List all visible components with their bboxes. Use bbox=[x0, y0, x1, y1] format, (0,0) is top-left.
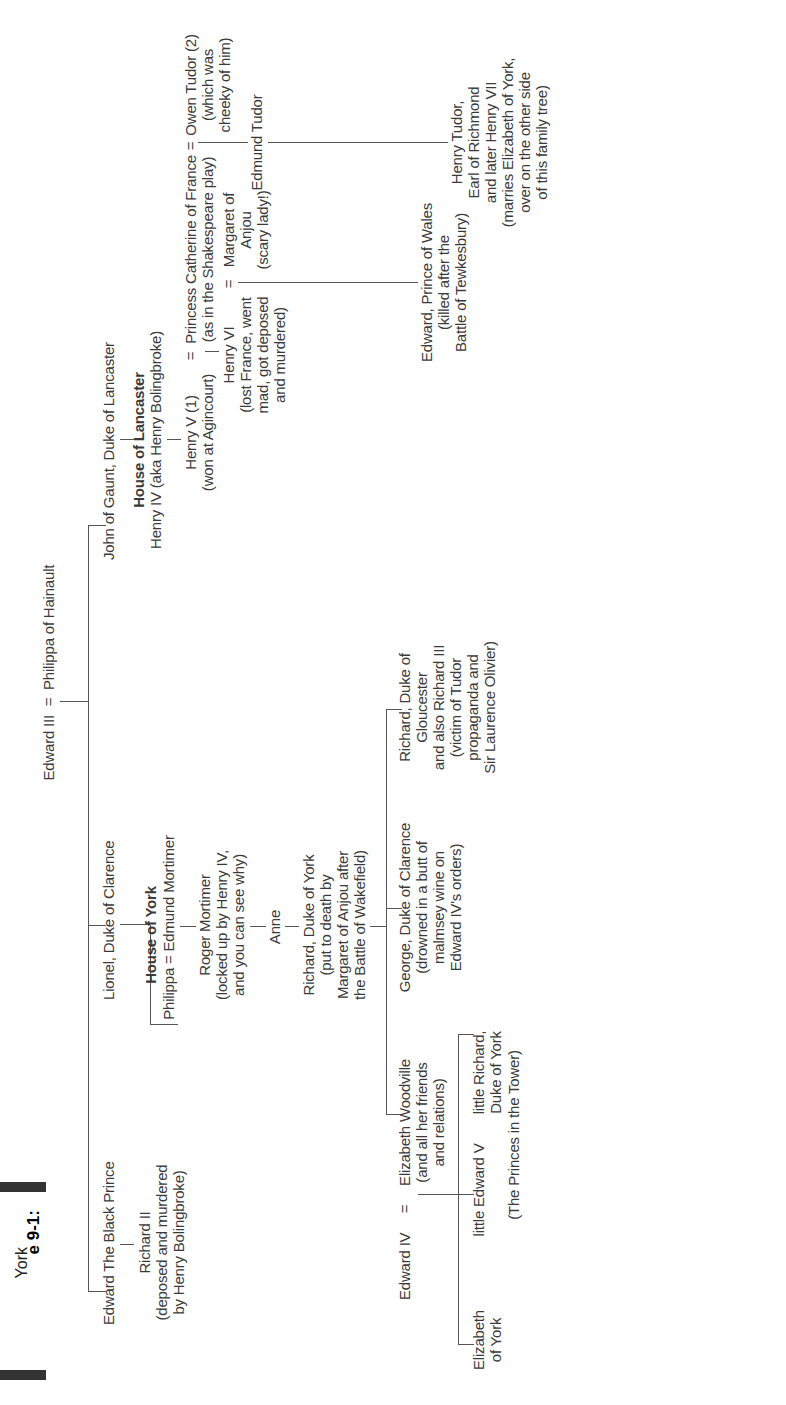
node-edward-iii: Edward III bbox=[40, 715, 57, 825]
marriage-symbol: = bbox=[396, 1203, 413, 1215]
node-catherine-of-france: Princess Catherine of France (as in the … bbox=[182, 152, 216, 347]
connector bbox=[198, 142, 248, 143]
node-lionel: Lionel, Duke of Clarence bbox=[100, 841, 117, 1000]
node-roger-mortimer: Roger Mortimer (locked up by Henry IV, a… bbox=[196, 830, 247, 1020]
node-philippa-of-hainault: Philippa of Hainault bbox=[40, 565, 57, 690]
connector bbox=[458, 1035, 459, 1345]
marriage-symbol: = bbox=[40, 696, 57, 708]
node-anne: Anne bbox=[266, 889, 283, 965]
family-tree-diagram: Edward III = Philippa of Hainault Edward… bbox=[0, 0, 786, 1405]
node-elizabeth-woodville: Elizabeth Woodville (and all her friends… bbox=[396, 1045, 447, 1200]
caption-bar-bottom bbox=[0, 1370, 46, 1380]
node-henry-tudor: Henry Tudor, Earl of Richmond and later … bbox=[448, 45, 550, 240]
house-of-york-title: House of York bbox=[142, 845, 159, 1025]
connector bbox=[285, 926, 299, 927]
marriage-symbol: = bbox=[220, 278, 237, 290]
connector bbox=[180, 926, 196, 927]
connector bbox=[88, 526, 89, 1292]
marriage-symbol: = bbox=[182, 350, 199, 362]
node-little-edward-v: little Edward V bbox=[470, 1130, 487, 1250]
node-elizabeth-of-york: Elizabeth of York bbox=[470, 1300, 504, 1380]
node-richard-ii: Richard II (deposed and murdered by Henr… bbox=[136, 1155, 187, 1330]
connector bbox=[238, 282, 418, 283]
marriage-symbol: = bbox=[182, 140, 199, 152]
connector bbox=[268, 142, 448, 143]
node-richard-duke-of-york: Richard, Duke of York (put to death by M… bbox=[300, 835, 368, 1015]
connector bbox=[120, 1244, 134, 1245]
node-edmund-tudor: Edmund Tudor bbox=[248, 85, 265, 200]
node-little-richard: little Richard, Duke of York bbox=[470, 1015, 504, 1130]
connector bbox=[370, 926, 386, 927]
princes-in-the-tower-note: (The Princes in the Tower) bbox=[505, 1035, 522, 1235]
node-edward-black-prince: Edward The Black Prince bbox=[100, 1161, 117, 1325]
node-henry-iv: Henry IV (aka Henry Bolingbroke) bbox=[147, 320, 164, 560]
connector bbox=[167, 439, 181, 440]
node-henry-vi: Henry VI (lost France, went mad, got dep… bbox=[220, 290, 288, 420]
node-henry-v: Henry V (1) (won at Agincourt) bbox=[182, 365, 216, 500]
caption-line: York bbox=[13, 1247, 31, 1291]
node-edward-iv: Edward IV bbox=[396, 1233, 413, 1300]
caption-lines: York bbox=[0, 1190, 46, 1390]
node-richard-iii: Richard, Duke of Gloucester and also Ric… bbox=[396, 625, 498, 790]
node-george-duke-of-clarence: George, Duke of Clarence (drowned in a b… bbox=[396, 815, 464, 1000]
connector bbox=[386, 710, 387, 1115]
connector bbox=[205, 351, 219, 352]
node-john-of-gaunt: John of Gaunt, Duke of Lancaster bbox=[100, 342, 117, 560]
connector bbox=[250, 926, 266, 927]
house-of-lancaster-title: House of Lancaster bbox=[130, 355, 147, 525]
node-owen-tudor: Owen Tudor (2) (which was cheeky of him) bbox=[182, 30, 233, 140]
node-philippa-edmund-mortimer: Philippa = Edmund Mortimer bbox=[160, 820, 177, 1035]
connector bbox=[418, 1194, 458, 1195]
connector bbox=[60, 701, 88, 702]
